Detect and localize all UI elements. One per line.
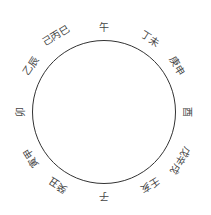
direction-label-you: 酉 xyxy=(182,107,192,117)
direction-ring-diagram: 午 丁未 庚申 酉 戊辛戌 壬亥 子 癸丑 寅甲 卯 乙辰 己丙巳 xyxy=(0,0,211,215)
direction-label-wu: 午 xyxy=(99,23,109,33)
direction-label-ding-wei: 丁未 xyxy=(138,30,160,49)
direction-label-wu-xin-xu: 戊辛戌 xyxy=(168,144,192,175)
direction-label-ren-hai: 壬亥 xyxy=(138,175,160,194)
direction-circle xyxy=(32,40,176,184)
direction-label-ji-bing-si: 己丙巳 xyxy=(41,23,72,47)
direction-label-yin-jia: 寅甲 xyxy=(22,146,41,168)
direction-label-zi: 子 xyxy=(99,191,109,201)
direction-label-mao: 卯 xyxy=(16,107,26,117)
direction-label-gui-chou: 癸丑 xyxy=(47,175,69,194)
direction-label-geng-shen: 庚申 xyxy=(167,55,186,77)
direction-label-yi-chen: 乙辰 xyxy=(22,55,41,77)
